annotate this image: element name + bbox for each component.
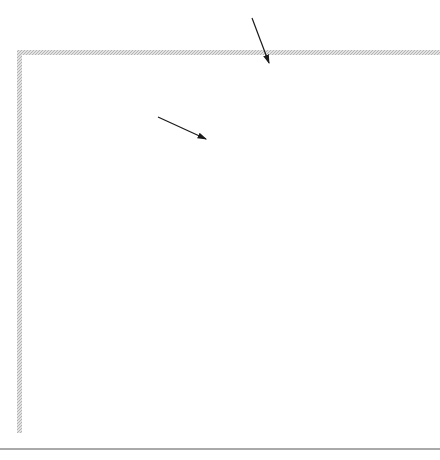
fpga-diagram [0,0,440,460]
chip-border-left [17,50,22,433]
chip-border-top [17,50,440,55]
pointer-arrows [158,18,269,139]
clb-pointer-arrow [158,117,206,139]
io-block-pointer-arrow [252,18,269,63]
diagram-canvas [0,0,440,460]
